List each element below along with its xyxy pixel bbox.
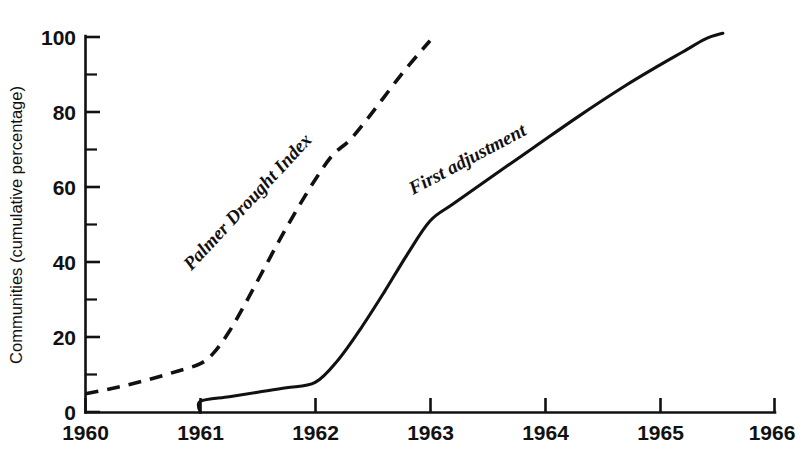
y-tick-label-40: 40 (53, 251, 76, 274)
chart-plot-area: 100 80 60 40 20 0 1960 1961 1962 1963 19… (0, 0, 810, 459)
x-tick-label-1966: 1966 (749, 421, 796, 444)
x-tick-label-1965: 1965 (637, 421, 684, 444)
x-tick-label-1964: 1964 (522, 421, 569, 444)
y-tick-label-80: 80 (53, 101, 76, 124)
y-tick-label-100: 100 (41, 26, 76, 49)
chart-figure: 100 80 60 40 20 0 1960 1961 1962 1963 19… (0, 0, 810, 459)
y-tick-label-20: 20 (53, 326, 76, 349)
x-tick-label-1960: 1960 (62, 421, 109, 444)
x-tick-label-1962: 1962 (292, 421, 339, 444)
y-axis-minor-ticks (86, 75, 98, 375)
series-label-first-adjustment: First adjustment (404, 119, 530, 199)
series-palmer-drought-index (86, 41, 431, 394)
x-axis-ticks (86, 398, 775, 413)
x-tick-label-1963: 1963 (407, 421, 454, 444)
y-axis-title: Communities (cumulative percentage) (7, 86, 25, 364)
x-tick-label-1961: 1961 (177, 421, 224, 444)
y-tick-label-60: 60 (53, 176, 76, 199)
series-first-adjustment (198, 33, 723, 412)
series-label-palmer-drought-index: Palmer Drought Index (178, 129, 316, 275)
